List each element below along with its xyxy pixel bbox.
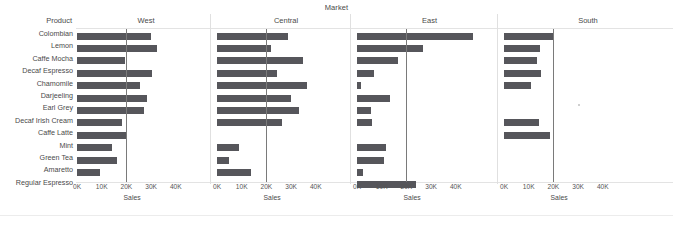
product-label: Colombian [0,28,76,40]
bar[interactable] [77,70,152,77]
bar[interactable] [357,157,384,164]
bar-row[interactable] [76,55,216,67]
bar-row[interactable] [216,80,356,92]
bar-row[interactable] [76,129,216,141]
bar[interactable] [77,33,151,40]
bar[interactable] [77,95,147,102]
bar[interactable] [217,107,299,114]
bar-row[interactable] [503,166,673,178]
bar-row[interactable] [76,154,216,166]
bar-row[interactable] [503,117,673,129]
bar-row[interactable] [76,104,216,116]
bar-row[interactable] [356,142,503,154]
bar[interactable] [357,70,374,77]
bar-row[interactable] [356,55,503,67]
bar-row[interactable] [356,166,503,178]
bar-row[interactable] [503,80,673,92]
bar-row[interactable] [76,30,216,42]
bar-row[interactable] [216,154,356,166]
bar[interactable] [357,82,361,89]
bar-row[interactable] [216,104,356,116]
x-axis-tick-label: 0K [500,183,508,190]
bar[interactable] [217,82,307,89]
bar[interactable] [357,107,371,114]
bar-row[interactable] [216,55,356,67]
bar-row[interactable] [216,30,356,42]
bar-row[interactable] [356,129,503,141]
bar[interactable] [77,157,117,164]
bar[interactable] [357,95,390,102]
bar[interactable] [217,119,282,126]
bar[interactable] [217,95,291,102]
bar[interactable] [77,144,112,151]
bar-row[interactable] [503,55,673,67]
bar[interactable] [77,132,127,139]
bar-row[interactable] [503,129,673,141]
bar[interactable] [504,82,531,89]
bar-row[interactable] [356,104,503,116]
panel-separator [497,14,498,184]
bar-row[interactable] [76,67,216,79]
bar[interactable] [217,169,251,176]
bar[interactable] [357,57,398,64]
product-label: Green Tea [0,152,76,164]
bar-row[interactable] [76,117,216,129]
bar[interactable] [357,144,386,151]
bar-row[interactable] [356,92,503,104]
plot-area [503,28,673,183]
bar-row[interactable] [356,67,503,79]
bar-row[interactable] [356,30,503,42]
bar-row[interactable] [216,67,356,79]
x-axis-tick-label: 30K [145,183,157,190]
bar[interactable] [217,45,271,52]
bar[interactable] [217,157,229,164]
bar-row[interactable] [503,142,673,154]
bar[interactable] [217,144,239,151]
bar[interactable] [77,169,100,176]
bar-row[interactable] [216,166,356,178]
bar[interactable] [77,107,144,114]
bar-row[interactable] [356,80,503,92]
bar[interactable] [504,70,541,77]
bar[interactable] [357,33,473,40]
bar[interactable] [357,169,363,176]
bar-row[interactable] [356,154,503,166]
bar[interactable] [504,45,540,52]
bar-row[interactable] [503,92,673,104]
bar[interactable] [77,45,157,52]
bar[interactable] [504,33,553,40]
bar[interactable] [357,45,423,52]
product-label: Caffe Latte [0,127,76,139]
bar[interactable] [504,132,550,139]
bar-row[interactable] [76,142,216,154]
bar-row[interactable] [216,42,356,54]
bar[interactable] [77,82,140,89]
bar-row[interactable] [356,42,503,54]
x-axis: 0K10K20K30K40KSales [356,183,503,210]
bar-row[interactable] [503,67,673,79]
x-axis-tick-label: 10K [96,183,108,190]
bar-row[interactable] [503,104,673,116]
bar[interactable] [77,119,122,126]
bar[interactable] [77,57,125,64]
bar-row[interactable] [76,80,216,92]
bar[interactable] [504,57,537,64]
bar-row[interactable] [216,129,356,141]
bar[interactable] [217,57,303,64]
bar-row[interactable] [503,42,673,54]
bar[interactable] [357,119,372,126]
bar-row[interactable] [356,117,503,129]
bar[interactable] [217,33,288,40]
bar-row[interactable] [216,92,356,104]
product-label: Lemon [0,40,76,52]
bar-row[interactable] [503,154,673,166]
bar-row[interactable] [503,30,673,42]
bar[interactable] [504,119,539,126]
bar[interactable] [217,70,277,77]
bar-row[interactable] [216,117,356,129]
bar-row[interactable] [76,92,216,104]
bar-row[interactable] [76,166,216,178]
bar-row[interactable] [76,42,216,54]
market-panel-east: East0K10K20K30K40KSales [356,14,503,210]
bar-row[interactable] [216,142,356,154]
